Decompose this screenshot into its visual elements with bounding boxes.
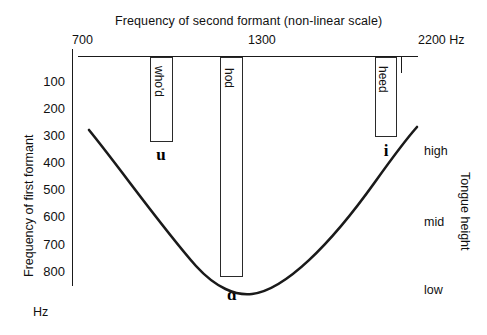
- tongue-height-level-high: high: [424, 144, 448, 158]
- tongue-height-level-low: low: [424, 283, 443, 297]
- right-axis-title: Tongue height: [458, 172, 472, 251]
- figure-canvas: Frequency of second formant (non-linear …: [0, 0, 487, 335]
- tongue-height-level-mid: mid: [424, 215, 444, 229]
- vowel-space-curve: [0, 0, 487, 335]
